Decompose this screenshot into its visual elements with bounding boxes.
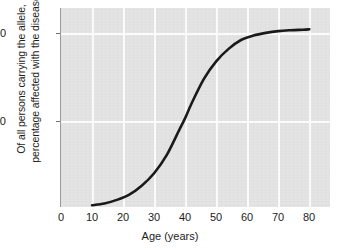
chart-figure: Of all persons carrying the allele, perc… [0, 0, 340, 251]
x-tick-label-10: 10 [79, 211, 105, 223]
x-tick-label-40: 40 [172, 211, 198, 223]
x-tick-label-20: 20 [110, 211, 136, 223]
y-axis-label: Of all persons carrying the allele, perc… [11, 0, 45, 179]
x-tick-label-50: 50 [203, 211, 229, 223]
x-tick-label-60: 60 [234, 211, 260, 223]
y-tick-label-100: 100 [0, 27, 6, 39]
x-tick-label-80: 80 [296, 211, 322, 223]
x-tick-label-70: 70 [265, 211, 291, 223]
series-line-penetrance [92, 29, 309, 205]
plot-area [60, 8, 330, 207]
x-axis-label: Age (years) [0, 230, 340, 242]
x-tick-label-0: 0 [48, 211, 74, 223]
y-tick-label-50: 50 [0, 115, 6, 127]
x-tick-label-30: 30 [141, 211, 167, 223]
sigmoid-curve [61, 8, 331, 207]
y-axis-label-line-2: percentage affected with the disease [28, 0, 42, 163]
y-axis-label-line-1: Of all persons carrying the allele, [14, 4, 28, 153]
